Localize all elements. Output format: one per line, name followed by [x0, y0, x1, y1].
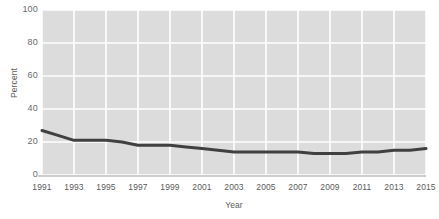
line-chart: Percent 020406080100 1991199319951997199…: [0, 0, 439, 219]
x-axis-tick-labels: 1991199319951997199920012003200520072009…: [0, 0, 439, 219]
x-axis-title: Year: [42, 200, 426, 210]
x-tick-label: 2015: [406, 182, 439, 192]
